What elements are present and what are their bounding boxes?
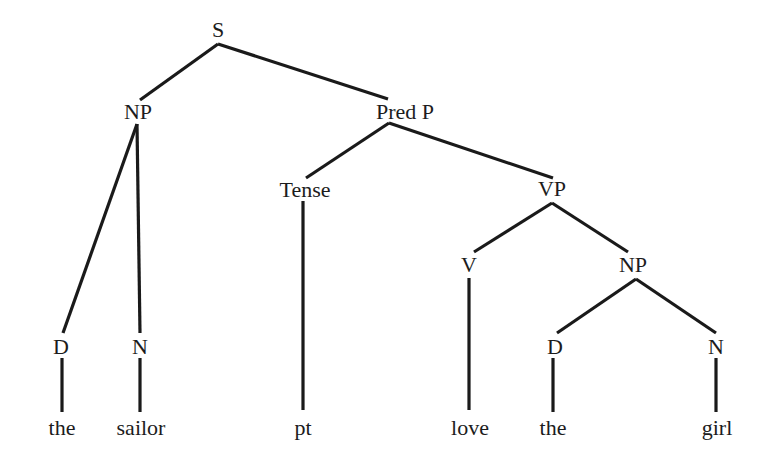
syntax-tree-edges <box>0 0 770 467</box>
edge-vp-np2 <box>552 203 628 252</box>
node-d-object: D <box>547 336 563 358</box>
node-s: S <box>212 19 224 41</box>
node-np-object: NP <box>619 254 647 276</box>
node-n-subject: N <box>132 336 148 358</box>
node-pred-p: Pred P <box>376 101 434 123</box>
edge-vp-v <box>474 203 552 252</box>
edge-np1-n1 <box>137 124 140 333</box>
leaf-the-object: the <box>540 417 567 439</box>
edge-predp-tense <box>306 123 389 178</box>
leaf-girl: girl <box>702 417 733 439</box>
node-np-subject: NP <box>124 101 152 123</box>
node-d-subject: D <box>53 336 69 358</box>
leaf-love: love <box>451 417 489 439</box>
edge-s-np1 <box>140 44 218 100</box>
node-vp: VP <box>538 178 566 200</box>
leaf-sailor: sailor <box>117 417 166 439</box>
node-n-object: N <box>708 336 724 358</box>
leaf-the-subject: the <box>49 417 76 439</box>
node-v: V <box>461 254 477 276</box>
edge-np2-d2 <box>557 279 636 333</box>
edge-predp-vp <box>389 123 553 178</box>
leaf-pt: pt <box>294 417 311 439</box>
node-tense: Tense <box>280 179 331 201</box>
edge-np2-n2 <box>636 279 716 333</box>
edge-np1-d1 <box>63 124 137 333</box>
edge-s-predp <box>218 44 388 99</box>
